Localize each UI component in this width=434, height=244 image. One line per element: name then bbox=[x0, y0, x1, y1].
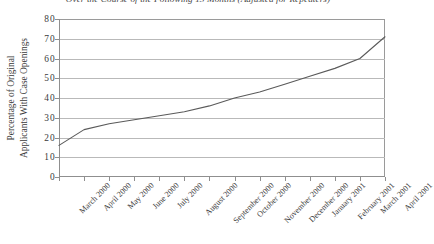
x-tick-label: August 2000 bbox=[204, 181, 240, 217]
y-tick-label: 20 bbox=[34, 133, 56, 143]
y-axis-title-line-1: Percentage of Original bbox=[6, 56, 16, 141]
y-axis-title-line-2: Applicants With Case Openings bbox=[19, 38, 29, 158]
y-tick-label: 0 bbox=[34, 172, 56, 182]
y-tick-label: 40 bbox=[34, 93, 56, 103]
plot-area bbox=[59, 19, 385, 177]
y-axis-tick-labels: 80706050403020100 bbox=[32, 0, 56, 244]
y-tick-label: 50 bbox=[34, 73, 56, 83]
y-tick-label: 70 bbox=[34, 34, 56, 44]
y-tick-label: 60 bbox=[34, 54, 56, 64]
x-tick-mark bbox=[385, 177, 386, 181]
x-tick-label: July 2000 bbox=[176, 181, 205, 210]
chart-title: Over the Course of the Following 13 Mont… bbox=[0, 0, 396, 5]
y-tick-label: 10 bbox=[34, 152, 56, 162]
x-tick-label: June 2000 bbox=[151, 181, 181, 211]
data-series-line bbox=[59, 19, 385, 177]
x-axis-tick-labels: March 2000April 2000May 2000June 2000Jul… bbox=[59, 181, 385, 244]
y-tick-label: 30 bbox=[34, 113, 56, 123]
y-tick-label: 80 bbox=[34, 14, 56, 24]
y-axis-title: Percentage of Original Applicants With C… bbox=[0, 14, 36, 182]
